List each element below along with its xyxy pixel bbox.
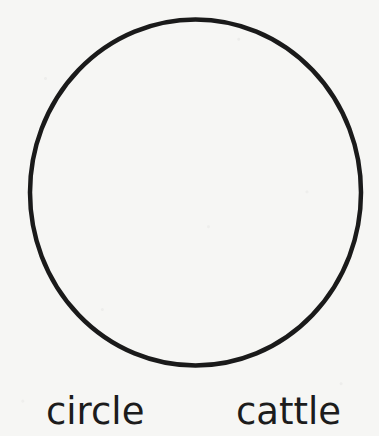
- word-label-cattle: cattle: [236, 389, 341, 435]
- circle-drawing: [0, 0, 379, 380]
- word-label-circle: circle: [46, 389, 144, 435]
- circle-outline: [30, 20, 361, 366]
